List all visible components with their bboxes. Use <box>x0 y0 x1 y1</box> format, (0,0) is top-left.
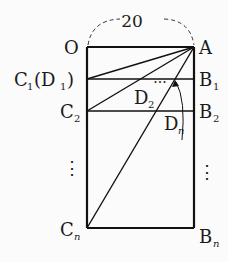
svg-text:B: B <box>199 69 212 90</box>
ellipsis-left: ⋮ <box>63 157 81 178</box>
label-D2: D 2 <box>134 87 154 110</box>
svg-text:1: 1 <box>213 81 219 92</box>
label-B2: B 2 <box>199 101 219 124</box>
svg-text:D: D <box>134 87 148 108</box>
dimension-arc-left <box>88 19 120 45</box>
label-Dn: D n <box>164 113 184 136</box>
dimension-arc-right <box>164 19 194 45</box>
svg-text:1: 1 <box>27 81 33 92</box>
svg-text:): ) <box>67 69 74 90</box>
label-Bn: B n <box>199 226 219 249</box>
svg-text:2: 2 <box>74 113 80 124</box>
svg-text:B: B <box>199 226 212 247</box>
ellipsis-right: ⋮ <box>198 161 216 182</box>
svg-text:D: D <box>164 113 178 134</box>
rectangle-segments-diagram: 20 ··· O A C 1 (D 1 ) C 2 C n B 1 B 2 B <box>0 0 228 262</box>
label-B1: B 1 <box>199 69 219 92</box>
svg-text:1: 1 <box>60 81 66 92</box>
svg-text:2: 2 <box>213 113 219 124</box>
svg-text:n: n <box>74 231 80 242</box>
svg-text:2: 2 <box>148 99 154 110</box>
svg-text:(D: (D <box>34 69 55 90</box>
svg-text:C: C <box>60 219 74 240</box>
label-A: A <box>198 37 213 58</box>
svg-text:B: B <box>199 101 212 122</box>
label-O: O <box>64 37 79 58</box>
ellipsis-dots: ··· <box>153 74 166 90</box>
label-C2: C 2 <box>60 101 80 124</box>
dimension-label: 20 <box>121 11 143 31</box>
svg-text:C: C <box>14 69 28 90</box>
label-Cn: C n <box>60 219 80 242</box>
svg-text:n: n <box>178 125 184 136</box>
svg-text:n: n <box>213 238 219 249</box>
svg-text:C: C <box>60 101 74 122</box>
label-C1-D1: C 1 (D 1 ) <box>14 69 74 92</box>
